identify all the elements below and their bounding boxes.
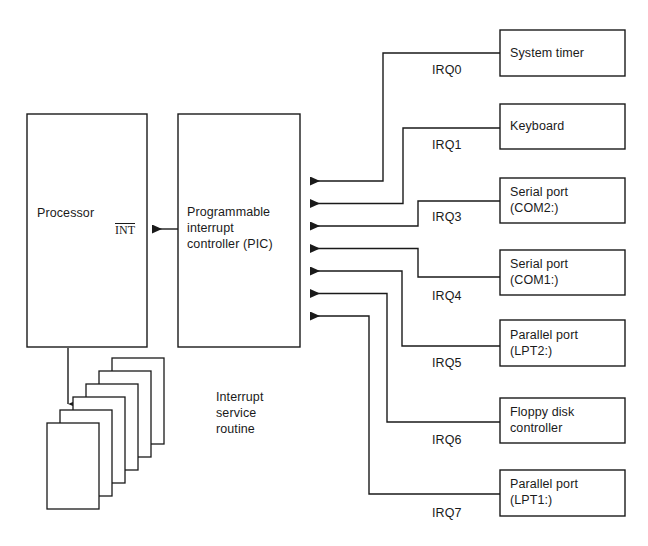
irq-wire-1 [310, 128, 500, 204]
device-label-1: Keyboard [510, 118, 622, 134]
irq-label-4: IRQ5 [432, 355, 462, 371]
irq-wire-0 [310, 53, 500, 181]
irq-label-2: IRQ3 [432, 209, 462, 225]
diagram-canvas: Processor INT Programmable interrupt con… [0, 0, 648, 546]
irq-label-5: IRQ6 [432, 432, 462, 448]
irq-wire-6 [310, 316, 500, 494]
device-label-4: Parallel port (LPT2:) [510, 327, 622, 359]
pic-label: Programmable interrupt controller (PIC) [187, 204, 299, 252]
irq-wire-2 [310, 201, 500, 226]
int-signal-label: INT [115, 223, 135, 237]
irq-label-1: IRQ1 [432, 137, 462, 153]
device-label-5: Floppy disk controller [510, 404, 622, 436]
device-label-6: Parallel port (LPT1:) [510, 476, 622, 508]
device-label-3: Serial port (COM1:) [510, 256, 622, 288]
isr-label: Interrupt service routine [216, 389, 286, 437]
irq-label-6: IRQ7 [432, 505, 462, 521]
irq-label-3: IRQ4 [432, 288, 462, 304]
irq-wire-5 [310, 294, 500, 423]
device-label-2: Serial port (COM2:) [510, 184, 622, 216]
isr-card-stack [47, 358, 164, 509]
device-label-0: System timer [510, 45, 622, 61]
irq-label-0: IRQ0 [432, 62, 462, 78]
processor-label: Processor [37, 205, 94, 221]
irq-wire-3 [310, 249, 500, 278]
irq-wire-4 [310, 271, 500, 346]
